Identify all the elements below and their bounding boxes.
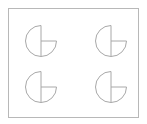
three-quarter-circle-top-left (25, 26, 56, 57)
diagram-canvas (0, 0, 147, 124)
three-quarter-circle-top-right (96, 26, 127, 57)
diagram-frame (9, 9, 139, 118)
shape-group (25, 26, 126, 103)
three-quarter-circle-bottom-left (25, 72, 56, 103)
three-quarter-circle-bottom-right (96, 72, 127, 103)
